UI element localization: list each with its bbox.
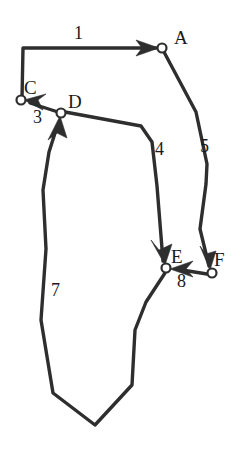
node-D[interactable]	[57, 109, 66, 118]
node-A[interactable]	[158, 44, 167, 53]
edge-4-path	[65, 112, 163, 261]
edge-label-8: 8	[177, 272, 186, 290]
edge-label-4: 4	[155, 140, 164, 158]
edge-label-3: 3	[33, 108, 42, 126]
node-label-F: F	[214, 250, 225, 269]
edge-7-arrowhead	[48, 116, 67, 140]
node-E[interactable]	[162, 264, 171, 273]
edge-7-path	[41, 130, 165, 425]
node-label-A: A	[174, 28, 188, 47]
edge-label-7: 7	[51, 281, 60, 299]
edge-label-5: 5	[200, 137, 209, 155]
node-label-E: E	[171, 247, 183, 266]
node-label-D: D	[68, 92, 82, 111]
edge-label-1: 1	[74, 24, 83, 42]
node-label-C: C	[24, 78, 37, 97]
graph-figure: A C D E F 1 3 4 5 7 8	[0, 0, 240, 458]
edge-5-path	[164, 52, 209, 266]
graph-canvas	[0, 0, 240, 458]
